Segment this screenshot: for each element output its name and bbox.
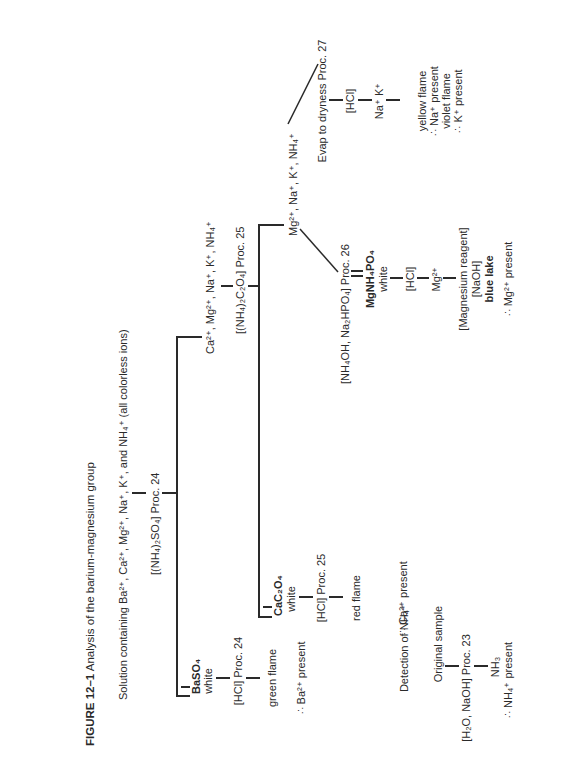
precipitate-mgnh4po4: MgNH₄PO₄ — [364, 250, 376, 308]
flowchart-rotated: FIGURE 12–1 Analysis of the barium-magne… — [0, 0, 573, 784]
evap-to-dryness: Evap to dryness Proc. 27 — [316, 40, 328, 163]
connector — [417, 277, 429, 279]
mgnh4po4-color: white — [377, 266, 389, 292]
connector — [445, 665, 459, 667]
connector — [358, 99, 372, 101]
na-result: ∴ Na⁺ present — [428, 66, 440, 136]
nh4-heading: Detection of NH₄⁺ — [398, 604, 410, 692]
mg-reagent: [Magnesium reagent] — [457, 227, 469, 330]
k-flame: violet flame — [440, 73, 452, 129]
connector — [351, 275, 363, 277]
na-flame: yellow flame — [416, 71, 428, 132]
mg-naoh: [NaOH] — [470, 261, 482, 298]
connector — [390, 277, 403, 279]
connector — [386, 99, 400, 101]
connector — [443, 277, 456, 279]
mg-ion: Mg²⁺ — [430, 267, 442, 292]
mg-result: ∴ Mg²⁺ present — [502, 242, 514, 317]
mg-blue-lake: blue lake — [483, 255, 495, 302]
nh4-sample: Original sample — [432, 606, 444, 682]
nh4-reagent: [H₂O, NaOH] Proc. 23 — [460, 634, 472, 742]
connector — [329, 99, 343, 101]
connector — [351, 270, 363, 272]
reagent-phosphate: [NH₄OH, Na₂HPO₄] Proc. 26 — [339, 244, 351, 384]
nh4-product: NH₃ — [489, 657, 501, 677]
k-result: ∴ K⁺ present — [452, 69, 464, 132]
nak-ions: Na⁺ K⁺ — [373, 83, 385, 119]
connector — [474, 665, 488, 667]
nh4-result: ∴ NH₄⁺ present — [502, 642, 514, 718]
nak-hcl: [HCl] — [344, 89, 356, 113]
mg-hcl: [HCl] — [404, 267, 416, 291]
